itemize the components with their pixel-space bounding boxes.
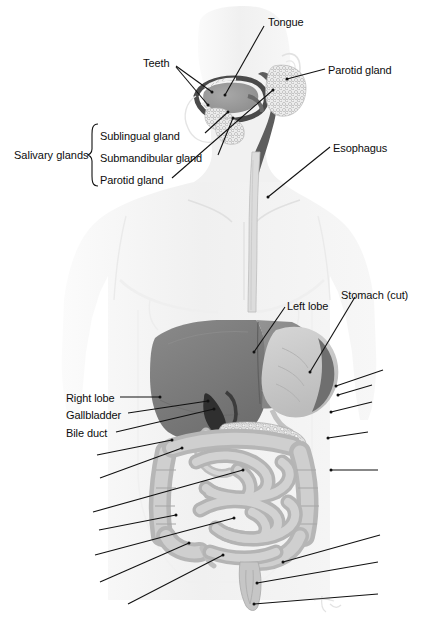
leader-dot-unlabeled-r1: [335, 385, 338, 388]
leader-dot-unlabeled-r4: [327, 437, 330, 440]
label-bile-duct: Bile duct: [66, 427, 107, 439]
leader-dot-unlabeled-r3: [330, 411, 333, 414]
leader-dot-tongue: [224, 94, 227, 97]
leader-dot-unlabeled-r5: [330, 469, 333, 472]
leader-dot-right-lobe: [159, 396, 162, 399]
label-esophagus: Esophagus: [333, 142, 387, 154]
leader-dot-teeth-lower: [207, 104, 210, 107]
leader-dot-stomach-cut: [309, 371, 312, 374]
digestive-system-figure: Tongue Teeth Parotid gland Esophagus Sal…: [0, 0, 443, 636]
leader-dot-submandibular-gland: [232, 117, 235, 120]
label-stomach-cut: Stomach (cut): [341, 289, 408, 301]
leader-dot-esophagus: [267, 196, 270, 199]
leader-dot-unlabeled-l4: [175, 514, 178, 517]
label-submandibular-gland: Submandibular gland: [100, 152, 202, 164]
anatomy-illustration: [0, 0, 443, 636]
leader-dot-unlabeled-r2: [337, 394, 340, 397]
label-left-lobe: Left lobe: [287, 300, 328, 312]
leader-dot-sublingual-gland: [227, 111, 230, 114]
leader-line-unlabeled-r4: [328, 432, 368, 438]
leader-dot-parotid-gland-right: [286, 78, 289, 81]
leader-dot-bile-duct: [213, 408, 216, 411]
leader-dot-unlabeled-r7: [256, 582, 259, 585]
leader-dot-unlabeled-l6: [188, 542, 191, 545]
label-gallbladder: Gallbladder: [66, 409, 121, 421]
label-parotid-gland-right: Parotid gland: [328, 64, 392, 76]
leader-dot-parotid-gland-list: [272, 89, 275, 92]
leader-dot-unlabeled-l3: [242, 469, 245, 472]
leader-dot-unlabeled-l2: [181, 447, 184, 450]
leader-dot-left-lobe: [253, 351, 256, 354]
label-sublingual-gland: Sublingual gland: [100, 130, 180, 142]
leader-dot-unlabeled-r8: [253, 603, 256, 606]
leader-dot-gallbladder: [207, 400, 210, 403]
leader-dot-unlabeled-l1: [171, 439, 174, 442]
label-salivary-glands-group: Salivary glands: [14, 149, 89, 161]
leader-dot-unlabeled-l7: [222, 554, 225, 557]
leader-dot-unlabeled-r6: [282, 561, 285, 564]
label-parotid-gland-list: Parotid gland: [100, 174, 164, 186]
label-tongue: Tongue: [268, 16, 304, 28]
label-teeth: Teeth: [143, 57, 169, 69]
leader-dot-teeth-upper: [211, 91, 214, 94]
leader-dot-unlabeled-l5: [233, 517, 236, 520]
leader-line-esophagus: [268, 147, 330, 197]
label-right-lobe: Right lobe: [66, 392, 115, 404]
